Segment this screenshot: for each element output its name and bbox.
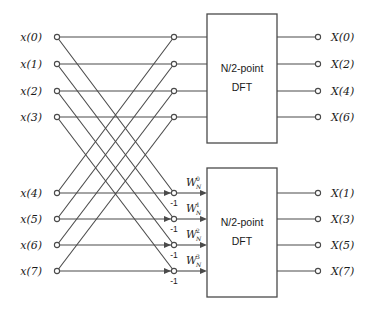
twiddle-label-2: W 2 N (186, 227, 202, 242)
dft-top-label-line1: N/2-point (221, 62, 264, 74)
output-label-7: X(7) (330, 265, 354, 278)
dft-bottom-label-line1: N/2-point (221, 216, 264, 228)
input-node-1 (54, 61, 59, 66)
middle-node-2 (171, 88, 176, 93)
twiddle-subscript-3: N (195, 261, 202, 268)
fft-diagram-canvas: x(0) x(1) x(2) x(3) x(4) x(5) x(6) x(7) … (0, 0, 366, 313)
middle-node-3 (171, 114, 176, 119)
negative-one-label-3: -1 (170, 276, 178, 286)
dft-block-bottom (207, 168, 277, 297)
twiddle-label-1: W 1 N (186, 201, 202, 216)
arrowhead-twiddle-2 (200, 242, 207, 248)
middle-node-7 (171, 268, 176, 273)
twiddle-superscript-3: 3 (196, 253, 200, 260)
output-node-6 (315, 242, 320, 247)
twiddle-subscript-0: N (195, 183, 202, 190)
output-node-2 (315, 88, 320, 93)
twiddle-superscript-0: 0 (196, 175, 200, 182)
output-label-2: X(4) (330, 85, 354, 98)
input-label-2: x(2) (20, 85, 42, 98)
output-label-1: X(2) (330, 58, 354, 71)
input-label-4: x(4) (20, 187, 42, 200)
arrowhead-node-7 (164, 268, 171, 274)
input-label-7: x(7) (20, 265, 42, 278)
input-label-6: x(6) (20, 239, 42, 252)
input-node-0 (54, 34, 59, 39)
twiddle-label-3: W 3 N (186, 253, 202, 268)
arrowhead-twiddle-1 (200, 216, 207, 222)
middle-node-6 (171, 242, 176, 247)
fft-butterfly-diagram: x(0) x(1) x(2) x(3) x(4) x(5) x(6) x(7) … (0, 0, 366, 313)
input-node-5 (54, 216, 59, 221)
middle-node-1 (171, 61, 176, 66)
input-label-3: x(3) (20, 111, 42, 124)
output-label-0: X(0) (330, 31, 354, 44)
output-node-1 (315, 61, 320, 66)
input-label-0: x(0) (20, 31, 42, 44)
middle-node-4 (171, 190, 176, 195)
input-node-6 (54, 242, 59, 247)
output-label-5: X(3) (330, 213, 354, 226)
input-node-7 (54, 268, 59, 273)
middle-node-0 (171, 34, 176, 39)
input-node-4 (54, 190, 59, 195)
output-node-3 (315, 114, 320, 119)
output-node-5 (315, 216, 320, 221)
output-label-3: X(6) (330, 111, 354, 124)
negative-one-label-0: -1 (170, 198, 178, 208)
twiddle-superscript-1: 1 (196, 201, 200, 208)
output-node-0 (315, 34, 320, 39)
negative-one-label-1: -1 (170, 224, 178, 234)
input-label-5: x(5) (20, 213, 42, 226)
dft-block-top (207, 14, 277, 143)
input-node-2 (54, 88, 59, 93)
twiddle-subscript-1: N (195, 209, 202, 216)
twiddle-superscript-2: 2 (196, 227, 200, 234)
arrowhead-node-6 (164, 242, 171, 248)
twiddle-label-0: W 0 N (186, 175, 202, 190)
output-label-6: X(5) (330, 239, 354, 252)
negative-one-label-2: -1 (170, 250, 178, 260)
arrowhead-twiddle-0 (200, 190, 207, 196)
output-node-7 (315, 268, 320, 273)
input-node-3 (54, 114, 59, 119)
twiddle-subscript-2: N (195, 235, 202, 242)
dft-bottom-label-line2: DFT (232, 235, 253, 247)
output-node-4 (315, 190, 320, 195)
output-label-4: X(1) (330, 187, 354, 200)
middle-node-5 (171, 216, 176, 221)
arrowhead-node-5 (164, 216, 171, 222)
arrowhead-twiddle-3 (200, 268, 207, 274)
input-label-1: x(1) (20, 58, 42, 71)
dft-top-label-line2: DFT (232, 81, 253, 93)
arrowhead-node-4 (164, 190, 171, 196)
